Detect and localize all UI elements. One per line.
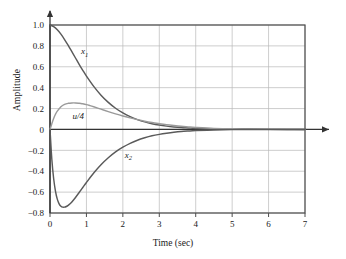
svg-text:6: 6 [266, 219, 271, 229]
svg-text:−0.6: −0.6 [28, 187, 45, 197]
svg-text:4: 4 [193, 219, 198, 229]
svg-text:1.0: 1.0 [33, 20, 45, 30]
gridlines [50, 25, 305, 213]
svg-text:0.2: 0.2 [33, 104, 44, 114]
svg-text:3: 3 [157, 219, 162, 229]
svg-text:5: 5 [230, 219, 235, 229]
plot-frame [50, 25, 305, 213]
svg-text:0.4: 0.4 [33, 83, 45, 93]
svg-text:2: 2 [121, 219, 126, 229]
svg-text:−0.4: −0.4 [28, 166, 45, 176]
svg-text:0: 0 [40, 125, 45, 135]
x-tick-labels: 01234567 [48, 219, 308, 229]
svg-text:x2: x2 [124, 150, 133, 161]
figure: 01234567 1.00.80.60.40.20−0.2−0.4−0.6−0.… [0, 0, 346, 259]
svg-text:0.6: 0.6 [33, 62, 45, 72]
svg-text:u/4: u/4 [73, 111, 85, 121]
data-curves [50, 25, 305, 207]
svg-text:0.8: 0.8 [33, 41, 45, 51]
x-axis-title: Time (sec) [0, 238, 346, 248]
chart-svg: 01234567 1.00.80.60.40.20−0.2−0.4−0.6−0.… [0, 0, 346, 259]
tick-marks [50, 213, 305, 217]
y-axis-title: Amplitude [12, 50, 22, 130]
svg-text:−0.2: −0.2 [28, 146, 44, 156]
svg-text:−0.8: −0.8 [28, 208, 45, 218]
svg-text:0: 0 [48, 219, 53, 229]
svg-text:7: 7 [303, 219, 308, 229]
svg-text:x1: x1 [80, 46, 88, 57]
y-tick-labels: 1.00.80.60.40.20−0.2−0.4−0.6−0.8 [28, 20, 45, 218]
svg-text:1: 1 [84, 219, 89, 229]
y-axis-line [47, 10, 53, 213]
